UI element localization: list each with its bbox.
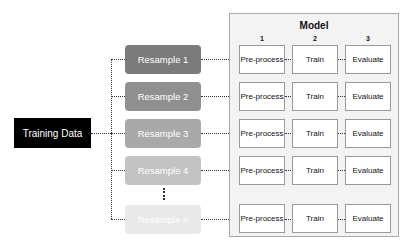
train-step: Train: [292, 119, 338, 148]
train-step: Train: [292, 82, 338, 111]
train-step: Train: [292, 45, 338, 74]
train-step: Train: [292, 156, 338, 185]
connector-resample-n: [111, 219, 125, 220]
preprocess-step: Pre-process: [239, 119, 285, 148]
connector-resample-1: [111, 59, 125, 60]
step-connector: [338, 133, 345, 134]
evaluate-step: Evaluate: [345, 119, 391, 148]
resample-node-3: Resample 3: [125, 119, 201, 148]
connector-resample-2: [111, 96, 125, 97]
preprocess-step: Pre-process: [239, 204, 285, 233]
step-connector: [338, 219, 345, 220]
train-step: Train: [292, 204, 338, 233]
evaluate-step: Evaluate: [345, 45, 391, 74]
connector-resample-3: [111, 133, 125, 134]
evaluate-step: Evaluate: [345, 204, 391, 233]
resample-node-1: Resample 1: [125, 45, 201, 74]
preprocess-step: Pre-process: [239, 156, 285, 185]
resample-node-n: Resample n: [125, 205, 201, 234]
connector-training: [91, 133, 111, 134]
evaluate-step: Evaluate: [345, 156, 391, 185]
step-connector: [338, 59, 345, 60]
column-number-1: 1: [252, 35, 272, 42]
preprocess-step: Pre-process: [239, 82, 285, 111]
step-connector: [338, 170, 345, 171]
step-connector: [338, 96, 345, 97]
ellipsis-vertical: [163, 188, 165, 200]
preprocess-step: Pre-process: [239, 45, 285, 74]
model-title: Model: [229, 20, 399, 31]
connector-resample-4: [111, 170, 125, 171]
evaluate-step: Evaluate: [345, 82, 391, 111]
resample-node-4: Resample 4: [125, 156, 201, 185]
resample-node-2: Resample 2: [125, 82, 201, 111]
training-data-node: Training Data: [14, 118, 91, 148]
column-number-2: 2: [305, 35, 325, 42]
connector-trunk: [111, 59, 112, 219]
column-number-3: 3: [358, 35, 378, 42]
